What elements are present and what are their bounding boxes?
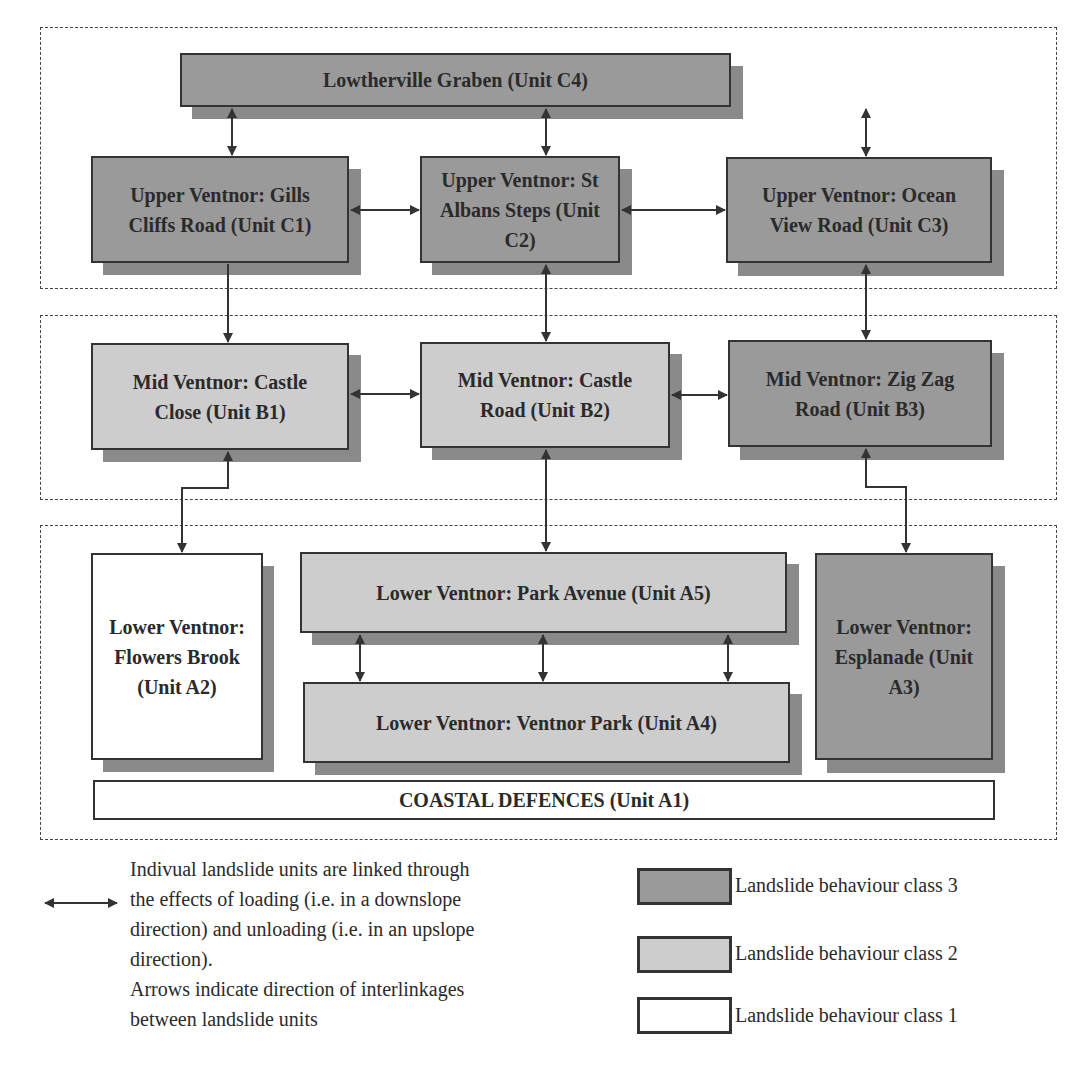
legend-label-class-2: Landslide behaviour class 2: [735, 938, 958, 968]
legend-line-4: direction).: [130, 944, 590, 974]
unit-c3-ocean-view-road[interactable]: Upper Ventnor: Ocean View Road (Unit C3): [726, 157, 992, 263]
unit-c2-st-albans-steps[interactable]: Upper Ventnor: St Albans Steps (Unit C2): [420, 156, 620, 263]
legend-line-2: the effects of loading (i.e. in a downsl…: [130, 884, 590, 914]
unit-c4-lowtherville-graben[interactable]: Lowtherville Graben (Unit C4): [180, 53, 731, 107]
unit-b3-zig-zag-road[interactable]: Mid Ventnor: Zig Zag Road (Unit B3): [728, 340, 992, 447]
legend-label-class-3: Landslide behaviour class 3: [735, 870, 958, 900]
unit-b2-castle-road[interactable]: Mid Ventnor: Castle Road (Unit B2): [420, 342, 670, 448]
unit-a1-coastal-defences[interactable]: COASTAL DEFENCES (Unit A1): [93, 780, 995, 820]
unit-c1-gills-cliffs-road[interactable]: Upper Ventnor: Gills Cliffs Road (Unit C…: [91, 156, 349, 263]
unit-b1-castle-close[interactable]: Mid Ventnor: Castle Close (Unit B1): [91, 343, 349, 450]
legend-line-1: Indivual landslide units are linked thro…: [130, 854, 590, 884]
unit-a2-flowers-brook[interactable]: Lower Ventnor: Flowers Brook (Unit A2): [91, 553, 263, 760]
legend-line-6: between landslide units: [130, 1004, 590, 1034]
unit-a3-esplanade[interactable]: Lower Ventnor: Esplanade (Unit A3): [815, 553, 993, 760]
legend-line-3: direction) and unloading (i.e. in an ups…: [130, 914, 590, 944]
legend-label-class-1: Landslide behaviour class 1: [735, 1000, 958, 1030]
legend-arrow-description: Indivual landslide units are linked thro…: [130, 854, 590, 1034]
legend-swatch-class-2: [637, 936, 732, 973]
unit-a5-park-avenue[interactable]: Lower Ventnor: Park Avenue (Unit A5): [300, 552, 787, 633]
legend-swatch-class-1: [637, 997, 732, 1034]
legend-line-5: Arrows indicate direction of interlinkag…: [130, 974, 590, 1004]
unit-a4-ventnor-park[interactable]: Lower Ventnor: Ventnor Park (Unit A4): [303, 682, 790, 763]
legend-swatch-class-3: [637, 868, 732, 905]
